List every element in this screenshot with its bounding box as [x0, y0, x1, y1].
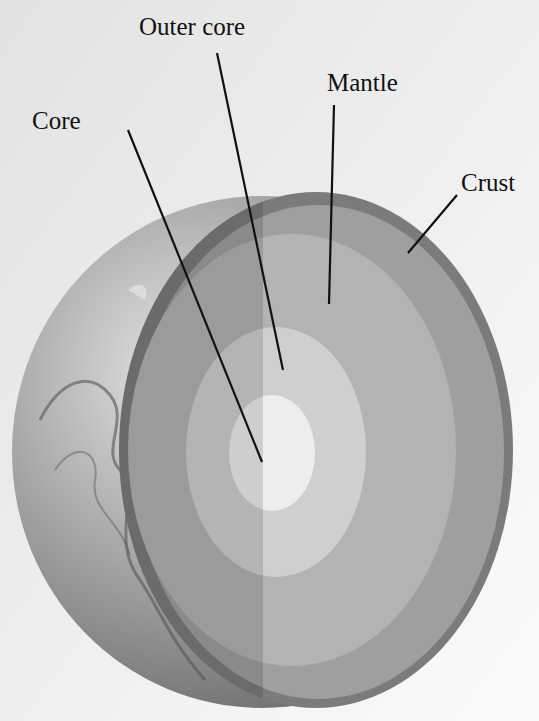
cutaway-layers: [119, 192, 513, 708]
earth-cutaway-illustration: [0, 0, 539, 721]
label-outer-core: Outer core: [139, 14, 245, 39]
earth-structure-diagram: Outer core Mantle Core Crust: [0, 0, 539, 721]
label-mantle: Mantle: [327, 70, 398, 95]
label-core: Core: [32, 108, 81, 133]
label-crust: Crust: [461, 170, 515, 195]
